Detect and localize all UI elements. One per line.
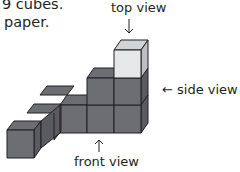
cube-front-face-light	[114, 50, 141, 78]
down-arrow-icon	[125, 19, 133, 33]
cube-front-face	[60, 105, 87, 133]
cube-front-face	[87, 78, 114, 105]
cube-front-face	[7, 130, 34, 158]
cube-front-face	[87, 105, 114, 133]
cube-top-face	[40, 86, 74, 95]
up-arrow-icon	[95, 140, 103, 152]
cube-front-face	[114, 105, 141, 133]
cube-front-face	[114, 78, 141, 105]
cube-structure-diagram	[0, 0, 240, 172]
